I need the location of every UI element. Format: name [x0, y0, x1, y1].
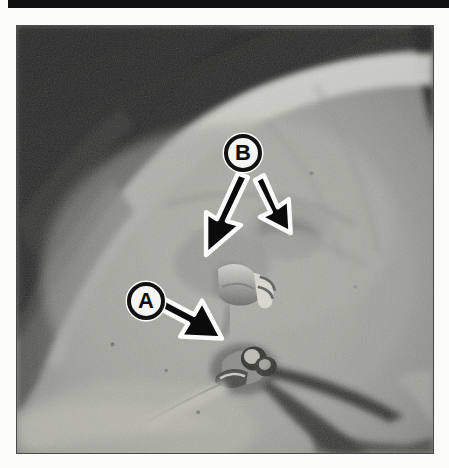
- callout-label-a[interactable]: A: [127, 282, 165, 320]
- figure-photo-frame: A B: [16, 25, 434, 454]
- callout-b-letter: B: [235, 142, 251, 164]
- page-header-rule: [8, 0, 449, 8]
- engine-bay-photograph: A B: [17, 26, 433, 453]
- callout-label-b[interactable]: B: [224, 134, 262, 172]
- manual-page: A B: [0, 0, 449, 468]
- callout-a-letter: A: [138, 290, 154, 312]
- photo-canvas: [17, 26, 433, 453]
